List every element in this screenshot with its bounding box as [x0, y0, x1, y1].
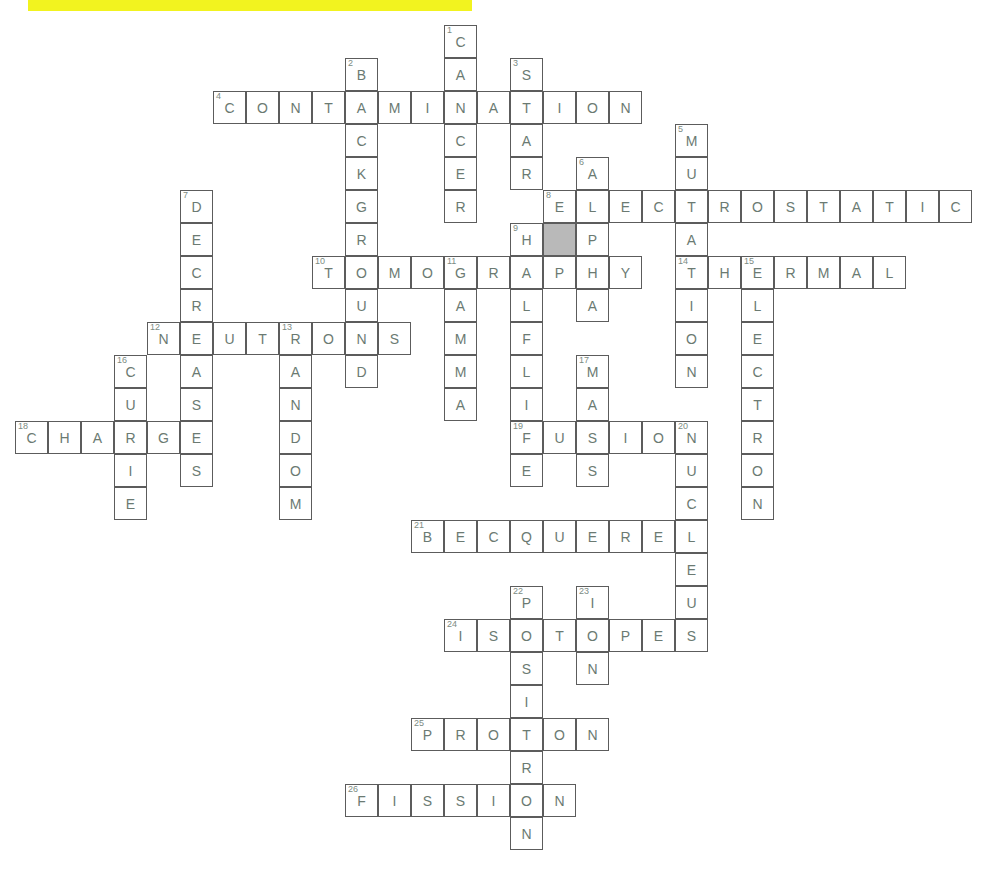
crossword-cell[interactable]: E: [642, 619, 675, 652]
crossword-cell[interactable]: U: [213, 322, 246, 355]
crossword-cell[interactable]: I: [675, 289, 708, 322]
crossword-cell[interactable]: C: [345, 124, 378, 157]
crossword-cell[interactable]: 19F: [510, 421, 543, 454]
crossword-cell[interactable]: N: [279, 388, 312, 421]
crossword-cell[interactable]: N: [741, 487, 774, 520]
crossword-cell[interactable]: A: [576, 388, 609, 421]
crossword-cell[interactable]: A: [840, 256, 873, 289]
crossword-cell[interactable]: T: [807, 190, 840, 223]
crossword-cell[interactable]: M: [807, 256, 840, 289]
crossword-cell[interactable]: C: [741, 355, 774, 388]
crossword-cell[interactable]: T: [873, 190, 906, 223]
crossword-cell[interactable]: 12N: [147, 322, 180, 355]
crossword-cell[interactable]: L: [576, 190, 609, 223]
crossword-cell[interactable]: E: [180, 421, 213, 454]
crossword-cell[interactable]: 13R: [279, 322, 312, 355]
crossword-cell[interactable]: U: [675, 586, 708, 619]
crossword-cell[interactable]: C: [675, 487, 708, 520]
crossword-cell[interactable]: O: [741, 190, 774, 223]
crossword-cell[interactable]: O: [741, 454, 774, 487]
crossword-cell[interactable]: N: [345, 322, 378, 355]
crossword-cell[interactable]: 23I: [576, 586, 609, 619]
crossword-cell[interactable]: L: [873, 256, 906, 289]
crossword-cell[interactable]: S: [576, 454, 609, 487]
crossword-cell[interactable]: I: [510, 388, 543, 421]
crossword-cell[interactable]: E: [741, 322, 774, 355]
crossword-cell[interactable]: A: [444, 58, 477, 91]
crossword-cell[interactable]: O: [642, 421, 675, 454]
crossword-cell[interactable]: S: [576, 421, 609, 454]
crossword-cell[interactable]: O: [576, 91, 609, 124]
crossword-cell[interactable]: S: [477, 619, 510, 652]
crossword-cell[interactable]: [543, 223, 576, 256]
crossword-cell[interactable]: O: [279, 454, 312, 487]
crossword-cell[interactable]: U: [675, 157, 708, 190]
crossword-cell[interactable]: O: [345, 256, 378, 289]
crossword-cell[interactable]: Y: [609, 256, 642, 289]
crossword-cell[interactable]: M: [279, 487, 312, 520]
crossword-cell[interactable]: C: [444, 124, 477, 157]
crossword-cell[interactable]: T: [510, 91, 543, 124]
crossword-cell[interactable]: A: [81, 421, 114, 454]
crossword-cell[interactable]: P: [576, 223, 609, 256]
crossword-cell[interactable]: 8E: [543, 190, 576, 223]
crossword-cell[interactable]: 5M: [675, 124, 708, 157]
crossword-cell[interactable]: L: [510, 289, 543, 322]
crossword-cell[interactable]: R: [510, 157, 543, 190]
crossword-cell[interactable]: E: [444, 157, 477, 190]
crossword-cell[interactable]: N: [444, 91, 477, 124]
crossword-cell[interactable]: M: [444, 355, 477, 388]
crossword-cell[interactable]: I: [378, 784, 411, 817]
crossword-cell[interactable]: A: [840, 190, 873, 223]
crossword-cell[interactable]: 16C: [114, 355, 147, 388]
crossword-cell[interactable]: N: [543, 784, 576, 817]
crossword-cell[interactable]: A: [345, 91, 378, 124]
crossword-cell[interactable]: 3S: [510, 58, 543, 91]
crossword-cell[interactable]: O: [312, 322, 345, 355]
crossword-cell[interactable]: H: [48, 421, 81, 454]
crossword-cell[interactable]: I: [510, 685, 543, 718]
crossword-cell[interactable]: E: [642, 520, 675, 553]
crossword-cell[interactable]: P: [609, 619, 642, 652]
crossword-cell[interactable]: C: [477, 520, 510, 553]
crossword-cell[interactable]: O: [510, 619, 543, 652]
crossword-cell[interactable]: E: [114, 487, 147, 520]
crossword-cell[interactable]: R: [741, 421, 774, 454]
crossword-cell[interactable]: L: [510, 355, 543, 388]
crossword-cell[interactable]: Q: [510, 520, 543, 553]
crossword-cell[interactable]: R: [477, 256, 510, 289]
crossword-cell[interactable]: 9H: [510, 223, 543, 256]
crossword-cell[interactable]: O: [477, 718, 510, 751]
crossword-cell[interactable]: 24I: [444, 619, 477, 652]
crossword-cell[interactable]: S: [411, 784, 444, 817]
crossword-grid[interactable]: 1C2BA3S4CONTAMINATIONCCA5MKER6AU7DGR8ELE…: [0, 0, 984, 882]
crossword-cell[interactable]: S: [444, 784, 477, 817]
crossword-cell[interactable]: 1C: [444, 25, 477, 58]
crossword-cell[interactable]: T: [675, 190, 708, 223]
crossword-cell[interactable]: K: [345, 157, 378, 190]
crossword-cell[interactable]: F: [510, 322, 543, 355]
crossword-cell[interactable]: T: [510, 718, 543, 751]
crossword-cell[interactable]: P: [543, 256, 576, 289]
crossword-cell[interactable]: 21B: [411, 520, 444, 553]
crossword-cell[interactable]: T: [312, 91, 345, 124]
crossword-cell[interactable]: M: [378, 256, 411, 289]
crossword-cell[interactable]: N: [675, 355, 708, 388]
crossword-cell[interactable]: S: [774, 190, 807, 223]
crossword-cell[interactable]: L: [675, 520, 708, 553]
crossword-cell[interactable]: O: [510, 784, 543, 817]
crossword-cell[interactable]: 4C: [213, 91, 246, 124]
crossword-cell[interactable]: A: [510, 124, 543, 157]
crossword-cell[interactable]: A: [444, 289, 477, 322]
crossword-cell[interactable]: S: [180, 388, 213, 421]
crossword-cell[interactable]: 17M: [576, 355, 609, 388]
crossword-cell[interactable]: D: [345, 355, 378, 388]
crossword-cell[interactable]: T: [741, 388, 774, 421]
crossword-cell[interactable]: O: [675, 322, 708, 355]
crossword-cell[interactable]: O: [543, 718, 576, 751]
crossword-cell[interactable]: I: [477, 784, 510, 817]
crossword-cell[interactable]: A: [180, 355, 213, 388]
crossword-cell[interactable]: R: [114, 421, 147, 454]
crossword-cell[interactable]: E: [510, 454, 543, 487]
crossword-cell[interactable]: R: [708, 190, 741, 223]
